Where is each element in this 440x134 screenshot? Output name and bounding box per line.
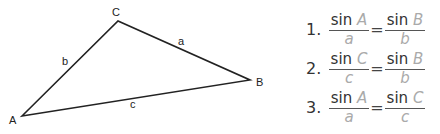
formula-row-2: 2. sin C c = sin B b: [306, 49, 440, 88]
equals-sign: =: [370, 20, 384, 39]
denominator: b: [400, 70, 410, 87]
denominator: a: [344, 109, 353, 126]
vertex-label-a: A: [9, 114, 17, 126]
denominator: c: [345, 70, 353, 87]
side-label-a: a: [178, 35, 185, 47]
fraction-right: sin C c: [384, 90, 426, 126]
fraction-left: sin C c: [328, 51, 370, 87]
formula-number: 3.: [306, 98, 328, 117]
triangle-abc: [22, 21, 250, 116]
numerator: sin A: [329, 90, 370, 109]
vertex-label-b: B: [256, 76, 263, 88]
fraction-right: sin B b: [384, 12, 426, 48]
formula-row-3: 3. sin A a = sin C c: [306, 88, 440, 127]
side-label-c: c: [130, 98, 136, 110]
equals-sign: =: [370, 59, 384, 78]
law-of-sines-formulas: 1. sin A a = sin B b 2. sin C c = sin B …: [306, 10, 440, 127]
fraction-left: sin A a: [328, 12, 370, 48]
fraction-left: sin A a: [328, 90, 370, 126]
equals-sign: =: [370, 98, 384, 117]
numerator: sin C: [329, 51, 370, 70]
fraction-right: sin B b: [384, 51, 426, 87]
vertex-label-c: C: [112, 6, 120, 18]
denominator: b: [400, 31, 410, 48]
formula-number: 2.: [306, 59, 328, 78]
numerator: sin B: [385, 12, 426, 31]
numerator: sin B: [385, 51, 426, 70]
numerator: sin C: [385, 90, 426, 109]
denominator: a: [344, 31, 353, 48]
formula-row-1: 1. sin A a = sin B b: [306, 10, 440, 49]
side-label-b: b: [62, 55, 68, 67]
denominator: c: [401, 109, 409, 126]
triangle-diagram: C B A a b c: [0, 0, 290, 134]
formula-number: 1.: [306, 20, 328, 39]
numerator: sin A: [329, 12, 370, 31]
